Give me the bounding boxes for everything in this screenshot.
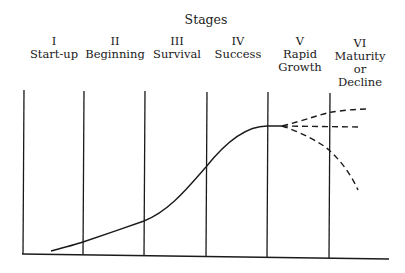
plateau-branch — [282, 126, 360, 127]
stage-name: Rapid — [283, 47, 318, 61]
business-growth-stages-diagram: Stages I Start-up II Beginning III Survi… — [0, 0, 405, 273]
stage-6-label: VI Maturity or Decline — [335, 36, 386, 89]
stage-name: Beginning — [85, 47, 145, 61]
stage-name: Survival — [153, 47, 201, 61]
stage-3-label: III Survival — [153, 34, 201, 61]
divider-5 — [267, 92, 268, 257]
stage-labels: I Start-up II Beginning III Survival IV … — [30, 34, 386, 89]
stage-name: Growth — [278, 60, 322, 74]
growth-curve — [51, 126, 282, 251]
divider-2 — [83, 91, 84, 255]
stage-numeral: IV — [232, 34, 246, 48]
stage-4-label: IV Success — [215, 34, 262, 61]
stage-numeral: VI — [353, 36, 367, 50]
divider-6 — [329, 93, 330, 258]
diagram-title: Stages — [185, 12, 228, 27]
divider-3 — [144, 91, 145, 256]
stage-5-label: V Rapid Growth — [278, 34, 322, 74]
stage-numeral: V — [295, 34, 305, 48]
stage-numeral: III — [170, 34, 184, 48]
stage-numeral: II — [110, 34, 119, 48]
stage-dividers — [23, 90, 330, 258]
continued-growth-branch — [282, 109, 368, 126]
decline-branch — [282, 126, 358, 190]
divider-4 — [206, 92, 207, 256]
stage-name: Decline — [338, 75, 382, 89]
stage-name: Start-up — [30, 47, 78, 61]
outcome-branches — [282, 109, 368, 190]
stage-1-label: I Start-up — [30, 34, 78, 61]
stage-name: Maturity — [335, 49, 386, 63]
stage-2-label: II Beginning — [85, 34, 145, 61]
stage-name: or — [354, 62, 367, 76]
stage-name: Success — [215, 47, 262, 61]
stage-numeral: I — [52, 34, 57, 48]
divider-1 — [23, 90, 24, 254]
